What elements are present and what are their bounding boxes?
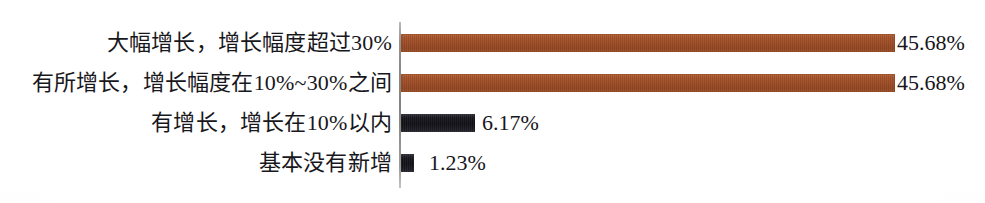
bar-value-label: 6.17%	[482, 103, 539, 143]
bar-value-label: 45.68%	[897, 63, 965, 103]
category-label: 大幅增长，增长幅度超过30%	[107, 23, 392, 63]
chart-row: 有所增长，增长幅度在10%~30%之间 45.68%	[0, 63, 985, 103]
bar-series-4	[401, 154, 414, 172]
horizontal-bar-chart: 大幅增长，增长幅度超过30% 45.68% 有所增长，增长幅度在10%~30%之…	[0, 0, 985, 203]
bar-series-2	[401, 74, 895, 92]
bar-series-1	[401, 34, 895, 52]
category-label: 有增长，增长在10%以内	[151, 103, 392, 143]
category-label: 基本没有新增	[259, 143, 392, 183]
bar-value-label: 45.68%	[897, 23, 965, 63]
chart-row: 基本没有新增 1.23%	[0, 143, 985, 183]
bar-series-3	[401, 114, 475, 132]
chart-row: 大幅增长，增长幅度超过30% 45.68%	[0, 23, 985, 63]
bar-value-label: 1.23%	[429, 143, 486, 183]
category-label: 有所增长，增长幅度在10%~30%之间	[32, 63, 392, 103]
chart-row: 有增长，增长在10%以内 6.17%	[0, 103, 985, 143]
